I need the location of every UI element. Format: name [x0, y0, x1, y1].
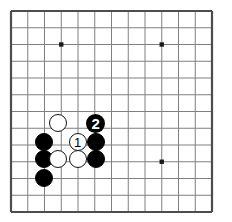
go-board-grid: [0, 0, 232, 222]
move-marker-2[interactable]: 2: [86, 114, 105, 133]
black-stone-right-lower[interactable]: [87, 150, 105, 168]
black-stone-right-upper[interactable]: [87, 133, 105, 151]
black-stone-left-upper[interactable]: [35, 133, 53, 151]
star-point-upper-right: [160, 42, 164, 46]
black-stone-bottom[interactable]: [35, 169, 53, 187]
white-stone-move-1-label: 1: [74, 136, 81, 149]
star-point-lower-right: [160, 160, 164, 164]
go-board-diagram: 12: [0, 0, 232, 222]
white-stone-move-1[interactable]: 1: [69, 133, 87, 151]
white-stone-upper[interactable]: [49, 114, 67, 132]
star-point-upper-left: [59, 42, 63, 46]
white-stone-lower-right[interactable]: [69, 150, 87, 168]
